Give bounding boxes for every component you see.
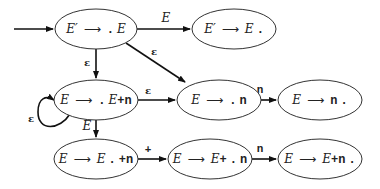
edge-n3-n4: ε bbox=[138, 85, 175, 100]
edge-n1-n4: ε bbox=[126, 43, 185, 82]
lr0-nfa-diagram: E ε ε ε ε n E + n E′ ⟶ . E bbox=[0, 0, 380, 189]
state-node-n6: E ⟶ E . +n bbox=[54, 139, 138, 179]
state-node-n5: E ⟶ n . bbox=[278, 80, 362, 120]
state-node-n8: E ⟶ E+n . bbox=[278, 139, 362, 179]
svg-text:ε: ε bbox=[28, 113, 34, 124]
svg-text:E ⟶ n .: E ⟶ n . bbox=[291, 93, 347, 108]
svg-text:+: + bbox=[145, 144, 152, 156]
svg-text:E′ ⟶ . E: E′ ⟶ . E bbox=[65, 22, 126, 37]
svg-text:E: E bbox=[161, 11, 171, 25]
svg-text:E′ ⟶ E .: E′ ⟶ E . bbox=[203, 22, 264, 37]
edge-n7-n8: n bbox=[252, 143, 276, 159]
state-node-n2: E′ ⟶ E . bbox=[192, 9, 276, 49]
state-node-n7: E ⟶ E+ . n bbox=[168, 139, 252, 179]
svg-text:E ⟶ . n: E ⟶ . n bbox=[190, 93, 246, 108]
svg-text:ε: ε bbox=[84, 57, 90, 68]
svg-text:ε: ε bbox=[145, 85, 151, 96]
svg-text:ε: ε bbox=[151, 46, 157, 57]
edge-n3-n6: E bbox=[82, 119, 96, 137]
state-node-n4: E ⟶ . n bbox=[177, 80, 261, 120]
state-node-n3: E ⟶ . E+n bbox=[54, 80, 138, 120]
edge-n6-n7: + bbox=[138, 144, 166, 159]
svg-text:E: E bbox=[82, 119, 92, 133]
state-node-n1: E′ ⟶ . E bbox=[55, 9, 137, 49]
edge-n1-n3: ε bbox=[84, 49, 96, 78]
edge-n1-n2: E bbox=[137, 11, 190, 29]
svg-text:n: n bbox=[257, 143, 264, 155]
